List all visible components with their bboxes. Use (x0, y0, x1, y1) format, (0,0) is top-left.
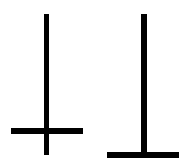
inverted-t-vertical-line (141, 14, 147, 155)
inverted-cross-horizontal-line (11, 128, 83, 134)
diagram-canvas (0, 0, 190, 163)
inverted-t-base-line (107, 152, 179, 158)
